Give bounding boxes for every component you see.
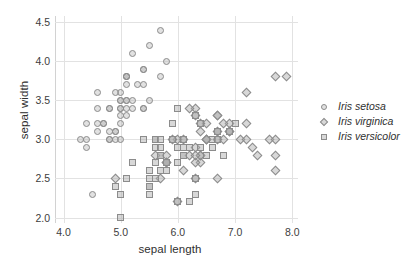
gridline-horizontal	[55, 218, 298, 219]
legend-item-label: Iris versicolor	[338, 130, 400, 142]
y-tick-label: 3.5	[22, 95, 50, 105]
data-point	[180, 136, 187, 143]
data-point	[179, 166, 189, 176]
data-point	[169, 120, 176, 127]
data-point	[146, 97, 153, 104]
data-point	[123, 112, 130, 119]
data-point	[146, 191, 153, 198]
data-point	[146, 167, 153, 174]
data-point	[174, 105, 181, 112]
data-point	[232, 120, 239, 127]
diamond-marker-icon	[320, 118, 328, 126]
y-tick-label: 4.5	[22, 17, 50, 27]
x-tick-label: 8.0	[275, 226, 309, 238]
data-point	[140, 81, 147, 88]
data-point	[163, 167, 170, 174]
data-point	[209, 144, 216, 151]
gridline-vertical	[64, 16, 65, 223]
legend-item[interactable]: Iris setosa	[318, 100, 412, 115]
circle-marker-icon	[321, 104, 327, 110]
data-point	[94, 105, 101, 112]
gridline-horizontal	[55, 22, 298, 23]
data-point	[214, 136, 221, 143]
data-point	[117, 214, 124, 221]
data-point	[163, 159, 170, 166]
data-point	[174, 159, 181, 166]
y-tick-label: 2.5	[22, 173, 50, 183]
data-point	[214, 128, 221, 135]
data-point	[129, 97, 136, 104]
data-point	[192, 175, 199, 182]
data-point	[94, 128, 101, 135]
data-point	[253, 150, 263, 160]
data-point	[83, 120, 90, 127]
data-point	[83, 144, 90, 151]
gridline-horizontal	[55, 61, 298, 62]
legend-item-label: Iris setosa	[338, 100, 386, 112]
x-tick-label: 5.0	[104, 226, 138, 238]
data-point	[270, 150, 280, 160]
data-point	[100, 120, 107, 127]
data-point	[89, 191, 96, 198]
data-point	[157, 27, 164, 34]
data-point	[152, 159, 159, 166]
data-point	[157, 152, 164, 159]
plot-area	[55, 16, 298, 223]
data-point	[146, 175, 153, 182]
data-point	[112, 183, 119, 190]
legend-item-label: Iris virginica	[338, 115, 393, 127]
data-point	[186, 198, 193, 205]
y-tick-label: 4.0	[22, 56, 50, 66]
x-tick-label: 6.0	[161, 226, 195, 238]
x-tick-label: 4.0	[47, 226, 81, 238]
square-marker-icon	[321, 134, 327, 140]
data-point	[192, 112, 199, 119]
gridline-horizontal	[55, 100, 298, 101]
data-point	[106, 136, 113, 143]
scatter-plot-figure: sepal width sepal length 2.02.53.03.54.0…	[0, 0, 412, 269]
gridline-vertical	[178, 16, 179, 223]
data-point	[157, 73, 164, 80]
data-point	[192, 191, 199, 198]
data-point	[169, 136, 176, 143]
data-point	[112, 89, 119, 96]
data-point	[117, 112, 124, 119]
data-point	[94, 89, 101, 96]
data-point	[157, 144, 164, 151]
legend: Iris setosaIris virginicaIris versicolor	[318, 100, 412, 145]
y-tick-label: 2.0	[22, 213, 50, 223]
data-point	[157, 136, 164, 143]
data-point	[117, 120, 124, 127]
data-point	[213, 174, 223, 184]
gridline-vertical	[292, 16, 293, 223]
data-point	[226, 128, 233, 135]
data-point	[242, 88, 252, 98]
data-point	[186, 144, 193, 151]
data-point	[270, 166, 280, 176]
data-point	[282, 72, 292, 82]
data-point	[174, 198, 181, 205]
data-point	[117, 136, 124, 143]
data-point	[112, 128, 119, 135]
data-point	[174, 144, 181, 151]
data-point	[220, 152, 227, 159]
data-point	[129, 50, 136, 57]
data-point	[242, 134, 252, 144]
data-point	[140, 105, 147, 112]
data-point	[123, 175, 130, 182]
data-point	[123, 73, 130, 80]
data-point	[197, 144, 204, 151]
data-point	[83, 136, 90, 143]
data-point	[163, 58, 170, 65]
legend-item[interactable]: Iris versicolor	[318, 130, 412, 145]
data-point	[203, 152, 210, 159]
data-point	[146, 42, 153, 49]
x-tick-label: 7.0	[218, 226, 252, 238]
data-point	[123, 105, 130, 112]
data-point	[270, 72, 280, 82]
data-point	[140, 66, 147, 73]
data-point	[242, 119, 252, 129]
legend-item[interactable]: Iris virginica	[318, 115, 412, 130]
gridline-horizontal	[55, 178, 298, 179]
data-point	[146, 183, 153, 190]
